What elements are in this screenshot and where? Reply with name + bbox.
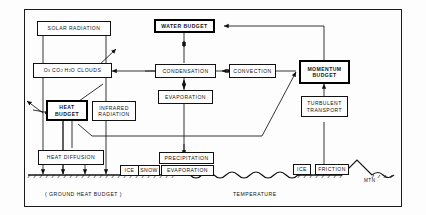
box-precipitation-label: PRECIPITATION bbox=[164, 155, 208, 161]
box-momentum-budget[interactable]: MOMENTUM BUDGET bbox=[299, 60, 350, 84]
box-momentum-budget-line2: BUDGET bbox=[312, 72, 336, 78]
label-temperature: TEMPERATURE bbox=[233, 191, 277, 197]
box-gases-clouds-label: O3 CO2 H2O CLOUDS bbox=[44, 67, 102, 74]
box-water-budget[interactable]: WATER BUDGET bbox=[154, 19, 215, 33]
box-infrared-radiation-line2: RADIATION bbox=[98, 111, 129, 117]
box-infrared-radiation[interactable]: INFRARED RADIATION bbox=[92, 101, 136, 121]
box-heat-diffusion[interactable]: HEAT DIFFUSION bbox=[38, 150, 104, 165]
box-heat-budget[interactable]: HEAT BUDGET bbox=[46, 100, 88, 121]
box-friction-label: FRICTION bbox=[318, 166, 346, 172]
box-ice-right[interactable]: ICE bbox=[293, 164, 311, 175]
box-snow-label: SNOW bbox=[140, 167, 158, 173]
box-condensation[interactable]: CONDENSATION bbox=[155, 64, 216, 78]
box-turbulent-transport[interactable]: TURBULENT TRANSPORT bbox=[301, 96, 348, 117]
diagram-canvas: SOLAR RADIATION O3 CO2 H2O CLOUDS HEAT B… bbox=[0, 0, 426, 215]
box-turbulent-transport-line2: TRANSPORT bbox=[307, 107, 342, 113]
box-heat-budget-line2: BUDGET bbox=[55, 111, 79, 117]
box-ice-left[interactable]: ICE bbox=[120, 165, 139, 176]
box-precipitation[interactable]: PRECIPITATION bbox=[159, 152, 214, 164]
box-gases-clouds[interactable]: O3 CO2 H2O CLOUDS bbox=[33, 63, 112, 78]
label-ground-heat-budget: ( GROUND HEAT BUDGET ) bbox=[45, 191, 122, 197]
box-evaporation-lower[interactable]: EVAPORATION bbox=[161, 165, 214, 176]
box-solar-radiation-label: SOLAR RADIATION bbox=[48, 25, 101, 31]
box-convection-label: CONVECTION bbox=[233, 68, 271, 74]
box-evaporation-upper[interactable]: EVAPORATION bbox=[158, 90, 213, 104]
box-condensation-label: CONDENSATION bbox=[162, 68, 208, 74]
label-mountain: MTN bbox=[364, 178, 375, 183]
box-friction[interactable]: FRICTION bbox=[315, 164, 349, 175]
box-solar-radiation[interactable]: SOLAR RADIATION bbox=[37, 21, 111, 36]
box-water-budget-label: WATER BUDGET bbox=[161, 23, 207, 29]
box-evaporation-lower-label: EVAPORATION bbox=[167, 167, 208, 173]
box-ice-right-label: ICE bbox=[297, 166, 307, 172]
box-snow[interactable]: SNOW bbox=[138, 165, 160, 176]
box-heat-diffusion-label: HEAT DIFFUSION bbox=[47, 154, 95, 160]
box-ice-left-label: ICE bbox=[125, 167, 135, 173]
box-evaporation-upper-label: EVAPORATION bbox=[165, 94, 206, 100]
box-convection[interactable]: CONVECTION bbox=[229, 64, 276, 78]
